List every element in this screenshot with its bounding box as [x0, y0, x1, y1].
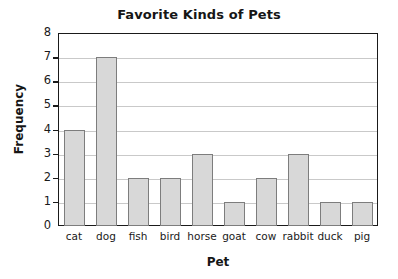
- bar: [96, 57, 117, 226]
- bar: [64, 130, 85, 227]
- y-tick-label: 3: [31, 146, 51, 160]
- chart-title: Favorite Kinds of Pets: [0, 7, 398, 22]
- bar: [160, 178, 181, 226]
- bar: [224, 202, 245, 226]
- bar: [256, 178, 277, 226]
- y-tick-label: 5: [31, 97, 51, 111]
- bar: [352, 202, 373, 226]
- y-axis-title: Frequency: [12, 59, 26, 179]
- y-tick-label: 6: [31, 73, 51, 87]
- x-tick-label: pig: [332, 230, 392, 242]
- y-tick-label: 2: [31, 170, 51, 184]
- y-tick-label: 8: [31, 25, 51, 39]
- bar-series: [58, 33, 378, 226]
- x-axis-title: Pet: [58, 255, 378, 269]
- bar: [320, 202, 341, 226]
- y-tick-label: 1: [31, 194, 51, 208]
- y-tick-label: 7: [31, 49, 51, 63]
- bar: [288, 154, 309, 226]
- bar: [192, 154, 213, 226]
- y-tick-label: 4: [31, 122, 51, 136]
- bar: [128, 178, 149, 226]
